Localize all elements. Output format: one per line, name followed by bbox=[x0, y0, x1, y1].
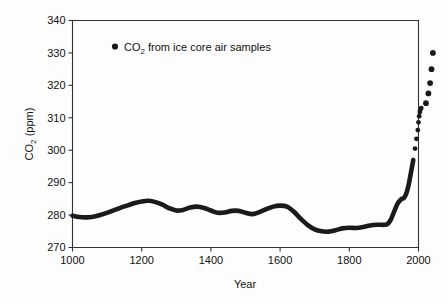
y-tick-label: 330 bbox=[47, 47, 65, 59]
y-tick-label: 280 bbox=[47, 209, 65, 221]
co2-data-point bbox=[427, 80, 433, 86]
legend-label-pre: CO bbox=[124, 41, 141, 53]
co2-data-point bbox=[417, 114, 422, 119]
co2-curve bbox=[73, 160, 414, 232]
data-series-co2 bbox=[73, 50, 436, 232]
co2-data-point bbox=[414, 136, 419, 141]
co2-data-point bbox=[430, 50, 436, 56]
x-tick-label: 1000 bbox=[60, 254, 84, 266]
legend-label: CO2 from ice core air samples bbox=[124, 41, 271, 56]
y-tick-label: 320 bbox=[47, 79, 65, 91]
legend-label-post: from ice core air samples bbox=[145, 41, 271, 53]
y-tick-label: 270 bbox=[47, 241, 65, 253]
co2-ice-core-chart: 270280290300310320330340 100012001400160… bbox=[0, 0, 448, 304]
x-axis-title: Year bbox=[234, 278, 257, 290]
legend-marker-icon bbox=[112, 43, 118, 49]
x-tick-label: 1200 bbox=[129, 254, 153, 266]
co2-data-point bbox=[416, 120, 421, 125]
y-tick-label: 310 bbox=[47, 112, 65, 124]
x-tick-label: 1800 bbox=[337, 254, 361, 266]
x-axis-tick-labels: 100012001400160018002000 bbox=[60, 254, 430, 266]
x-tick-label: 1400 bbox=[199, 254, 223, 266]
y-tick-label: 340 bbox=[47, 14, 65, 26]
co2-data-point bbox=[413, 146, 418, 151]
chart-figure: 270280290300310320330340 100012001400160… bbox=[0, 0, 448, 304]
y-tick-label: 300 bbox=[47, 144, 65, 156]
chart-legend: CO2 from ice core air samples bbox=[112, 41, 271, 56]
y-axis-title-post: (ppm) bbox=[23, 108, 35, 140]
co2-data-point bbox=[423, 100, 429, 106]
x-tick-label: 2000 bbox=[406, 254, 430, 266]
y-axis-title-pre: CO bbox=[23, 143, 35, 160]
x-axis-ticks bbox=[73, 248, 419, 252]
co2-data-point bbox=[419, 106, 424, 111]
y-axis-ticks bbox=[69, 21, 73, 248]
co2-data-dots bbox=[413, 50, 436, 151]
y-axis-tick-labels: 270280290300310320330340 bbox=[47, 14, 65, 253]
co2-data-point bbox=[429, 66, 435, 72]
co2-data-point bbox=[415, 128, 420, 133]
y-axis-title: CO2 (ppm) bbox=[23, 108, 38, 161]
x-tick-label: 1600 bbox=[268, 254, 292, 266]
y-tick-label: 290 bbox=[47, 176, 65, 188]
co2-data-point bbox=[425, 91, 431, 97]
